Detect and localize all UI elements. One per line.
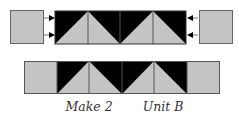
flying-geese-strip-top [55, 11, 186, 44]
caption: Make 2 Unit B [0, 99, 239, 114]
arrow-left-icon [187, 15, 198, 38]
left-square [11, 11, 44, 44]
unit-label: Unit B [143, 99, 184, 114]
right-square [200, 11, 233, 44]
make-count-label: Make 2 [66, 99, 113, 114]
arrow-right-icon [44, 15, 55, 38]
assembled-unit-b [24, 61, 220, 94]
